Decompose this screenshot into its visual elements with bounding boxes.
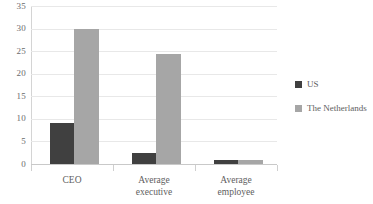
- y-axis-tick-label: 20: [6, 69, 26, 78]
- y-axis-tick-labels: 05101520253035: [5, 0, 26, 204]
- x-axis-label-line: executive: [113, 186, 195, 198]
- plot-area: [31, 6, 277, 164]
- legend-label: The Netherlands: [307, 104, 367, 113]
- y-axis-tick-label: 25: [6, 47, 26, 56]
- y-axis-tick-label: 0: [6, 160, 26, 169]
- bars-layer: [31, 6, 277, 164]
- legend-item-the-netherlands[interactable]: The Netherlands: [295, 104, 373, 113]
- bar-the-netherlands-average-executive: [156, 54, 181, 164]
- x-axis-label-line: employee: [195, 186, 277, 198]
- x-axis-label-ceo: CEO: [31, 174, 113, 186]
- bar-us-average-executive: [132, 153, 157, 164]
- bar-us-ceo: [50, 123, 75, 164]
- legend-item-us[interactable]: US: [295, 80, 373, 89]
- legend-label: US: [307, 80, 319, 89]
- x-axis-line: [31, 164, 277, 165]
- y-axis-tick-label: 30: [6, 24, 26, 33]
- category-tick: [31, 165, 32, 171]
- category-tick: [113, 165, 114, 171]
- x-axis-label-line: CEO: [31, 174, 113, 186]
- y-axis-tick-label: 5: [6, 137, 26, 146]
- y-axis-tick-label: 10: [6, 114, 26, 123]
- legend-swatch-icon: [295, 105, 302, 112]
- category-tick: [277, 165, 278, 171]
- y-axis-tick-label: 35: [6, 2, 26, 11]
- x-axis-label-average-employee: Averageemployee: [195, 174, 277, 198]
- x-axis-label-line: Average: [113, 174, 195, 186]
- x-axis-label-average-executive: Averageexecutive: [113, 174, 195, 198]
- category-tick: [195, 165, 196, 171]
- bar-the-netherlands-ceo: [74, 29, 99, 164]
- bar-us-average-employee: [214, 160, 239, 164]
- legend-swatch-icon: [295, 81, 302, 88]
- x-axis-category-labels: CEOAverageexecutiveAverageemployee: [31, 174, 277, 204]
- chart-legend: USThe Netherlands: [295, 80, 373, 128]
- bar-chart: 05101520253035 CEOAverageexecutiveAverag…: [0, 0, 373, 204]
- x-axis-label-line: Average: [195, 174, 277, 186]
- bar-the-netherlands-average-employee: [238, 160, 263, 164]
- y-axis-tick-label: 15: [6, 92, 26, 101]
